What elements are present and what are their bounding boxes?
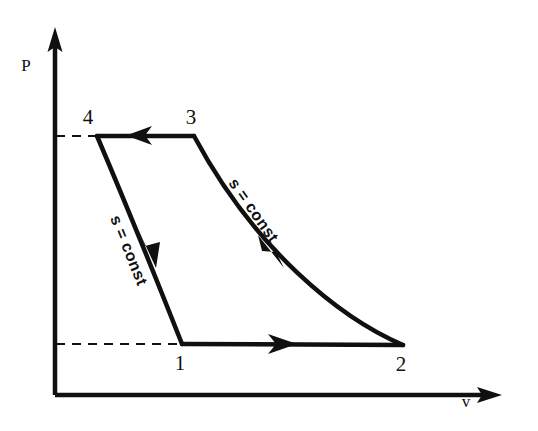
process-4-to-1-curve <box>97 136 182 344</box>
right-isentropic-label: s = const <box>226 175 283 246</box>
volume-axis-label: v <box>462 392 471 411</box>
cycle-path-group <box>97 126 403 354</box>
pv-diagram-figure: 4 3 1 2 P v s = const s = const <box>0 0 538 431</box>
pv-diagram-canvas: 4 3 1 2 P v s = const s = const <box>0 0 538 431</box>
process-2-to-3-curve <box>194 136 403 345</box>
state-point-label-1: 1 <box>175 351 186 375</box>
state-point-label-3: 3 <box>186 105 197 129</box>
state-point-label-2: 2 <box>396 352 407 376</box>
state-point-label-4: 4 <box>83 105 94 129</box>
pressure-axis-label: P <box>21 56 30 75</box>
